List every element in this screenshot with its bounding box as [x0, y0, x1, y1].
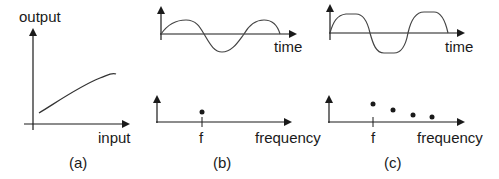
panel-b-freq-tick-label: f	[199, 130, 203, 145]
panel-a-y-label: output	[19, 9, 61, 24]
panel-c-time-label: time	[445, 39, 473, 54]
panel-c-freq-tick-label: f	[371, 130, 375, 145]
panel-a-caption: (a)	[69, 155, 87, 170]
panel-b-sine-wave	[161, 20, 280, 52]
panel-c-spectral-dot-1	[371, 102, 376, 107]
panel-b-caption: (b)	[213, 155, 231, 170]
panel-c-spectral-dot-4	[430, 115, 435, 120]
panel-c-freq-axes	[328, 97, 463, 127]
diagram-canvas	[0, 0, 499, 179]
panel-b-freq-label: frequency	[255, 130, 321, 145]
panel-c-spectral-dot-3	[411, 113, 416, 118]
panel-a-x-label: input	[98, 130, 131, 145]
panel-c-spectral-dot-2	[391, 108, 396, 113]
panel-b-freq-axes	[156, 97, 290, 127]
panel-b-time-label: time	[274, 39, 302, 54]
panel-c-freq-label: frequency	[417, 130, 483, 145]
panel-a-curve	[39, 73, 116, 113]
panel-a-axes	[24, 30, 128, 130]
panel-c-caption: (c)	[384, 155, 402, 170]
panel-b-spectral-dot-fundamental	[200, 110, 205, 115]
panel-c-time-axes	[329, 6, 463, 40]
